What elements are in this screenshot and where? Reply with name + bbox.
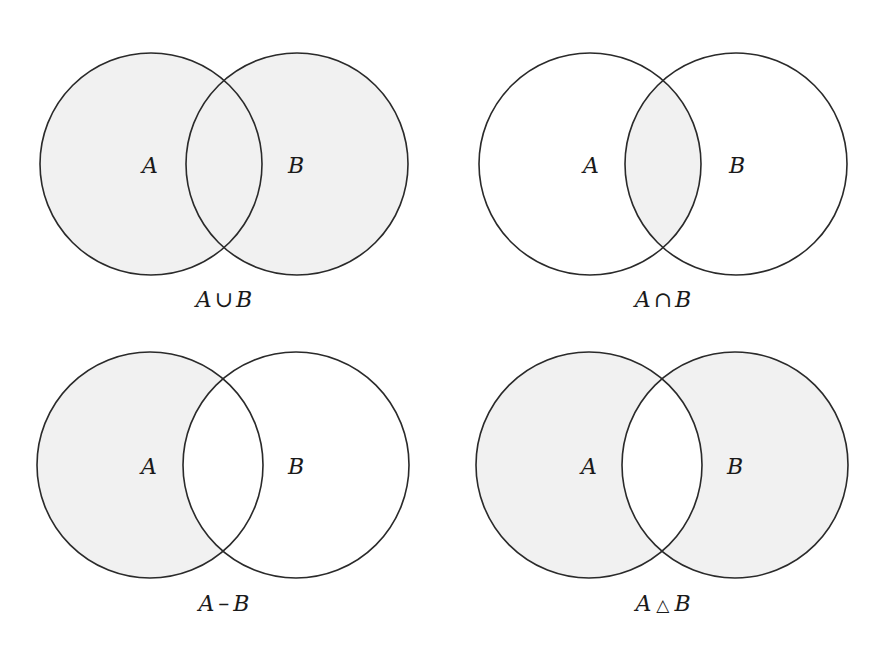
caption-union: A∪B [194,287,253,312]
panel-intersection: A B A∩B [479,53,847,312]
label-a: A [140,153,158,178]
label-b: B [287,153,304,178]
shaded-region [40,53,408,275]
venn-diagram-figure: A B A∪B A B A∩B A B A–B [0,0,892,650]
panel-symmetric-difference: A B A△B [476,352,848,616]
label-a: A [139,454,157,479]
label-b: B [728,153,745,178]
label-b: B [726,454,743,479]
panel-union: A B A∪B [40,53,408,312]
caption-difference: A–B [196,591,249,616]
caption-symmetric-difference: A△B [633,591,690,616]
label-b: B [287,454,304,479]
label-a: A [579,454,597,479]
shaded-region [476,352,848,578]
caption-intersection: A∩B [633,287,692,312]
label-a: A [581,153,599,178]
panel-difference: A B A–B [37,352,409,616]
